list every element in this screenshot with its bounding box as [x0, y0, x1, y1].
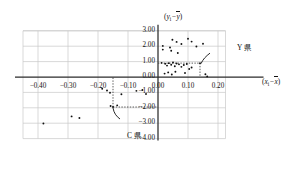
data-point — [187, 38, 189, 40]
data-point — [162, 49, 164, 51]
data-point — [180, 43, 182, 45]
data-point — [204, 73, 206, 75]
data-point — [177, 52, 179, 54]
annotation-y-prefecture: Y 県 — [237, 44, 251, 51]
data-point — [176, 62, 178, 64]
y-tick-label: −2.00 — [122, 104, 155, 111]
data-point — [162, 45, 164, 47]
leader-c-prefecture — [113, 108, 120, 119]
data-point — [176, 41, 178, 43]
data-point — [191, 41, 193, 43]
data-point — [191, 67, 193, 69]
data-point — [206, 75, 208, 77]
y-tick-label: 3.00 — [122, 27, 155, 34]
data-point — [161, 62, 163, 64]
annotation-c-prefecture: C 県 — [127, 132, 141, 139]
y-axis-title: (yi−y) — [164, 13, 182, 23]
data-point — [42, 123, 44, 125]
y-tick-label: −3.00 — [122, 120, 155, 127]
y-tick-label: 1.00 — [122, 58, 155, 65]
data-point — [183, 64, 185, 66]
data-point — [168, 62, 170, 64]
y-tick-label: 2.00 — [122, 43, 155, 50]
data-point — [164, 73, 166, 75]
data-point — [202, 43, 204, 45]
x-tick-label: −0.40 — [30, 83, 47, 90]
data-point — [180, 66, 182, 68]
data-point — [195, 46, 197, 48]
y-tick-label: −1.00 — [122, 89, 155, 96]
data-point — [169, 46, 171, 48]
data-point — [71, 115, 73, 117]
leader-y-prefecture — [201, 53, 210, 64]
data-point — [170, 50, 172, 52]
data-point — [109, 92, 111, 94]
x-tick-label: 0.10 — [182, 83, 195, 90]
data-point — [167, 71, 169, 73]
x-tick-label: 0.20 — [212, 83, 225, 90]
data-point — [78, 117, 80, 119]
data-point — [171, 39, 173, 41]
x-tick-label: −0.30 — [60, 83, 77, 90]
data-point — [199, 62, 201, 64]
data-point — [186, 63, 188, 65]
x-tick-label: −0.20 — [90, 83, 107, 90]
data-point — [170, 64, 172, 66]
x-axis-title: (xi−x) — [262, 78, 280, 88]
data-point — [172, 62, 174, 64]
data-point — [174, 71, 176, 73]
data-point — [116, 104, 118, 106]
data-point — [164, 63, 166, 65]
data-point — [112, 106, 114, 108]
data-point — [166, 65, 168, 67]
data-point — [110, 105, 112, 107]
data-point — [178, 63, 180, 65]
data-point — [184, 72, 186, 74]
data-point — [188, 68, 190, 70]
data-point — [171, 74, 173, 76]
scatter-plot-figure: (yi−y) (xi−x) −0.40−0.30−0.20−0.100.000.… — [0, 0, 308, 176]
y-tick-label: 0.00 — [122, 73, 155, 80]
data-point — [174, 65, 176, 67]
